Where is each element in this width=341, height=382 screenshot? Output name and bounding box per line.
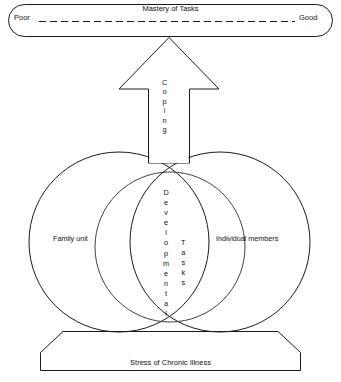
coping-arrow-label: Coping [162,78,167,134]
vertical-label-letter: p [163,97,167,106]
vertical-label-letter: D [163,188,168,198]
vertical-label-letter: a [181,248,185,258]
vertical-label-letter: v [164,208,168,218]
vertical-label-letter: t [165,289,167,299]
individual-members-label: Individual members [216,235,278,242]
vertical-label-letter: n [164,279,168,289]
vertical-label-letter: s [181,278,185,288]
vertical-label-letter: o [163,87,167,96]
vertical-label-letter: o [164,238,168,248]
arrow-shaft-mask [150,150,189,163]
vertical-label-letter: g [163,125,167,134]
vertical-label-letter: n [163,116,167,125]
vertical-label-letter: e [164,218,168,228]
vertical-label-letter: T [181,238,185,248]
vertical-label-letter: l [165,309,167,319]
vertical-label-letter: p [164,249,168,259]
mastery-scale-poor-label: Poor [14,14,30,22]
vertical-label-letter: k [181,268,185,278]
lens-left-arc [95,172,170,322]
tasks-label: Tasks [181,238,185,288]
diagram-vector-layer [0,0,341,382]
vertical-label-letter: a [164,299,168,309]
vertical-label-letter: s [181,258,185,268]
coping-arrow-outline [119,38,219,164]
diagram-canvas: Mastery of Tasks Poor Good Coping Family… [0,0,341,382]
stress-of-chronic-illness-label: Stress of Chronic Illness [0,359,341,367]
vertical-label-letter: C [162,78,167,87]
family-unit-label: Family unit [53,235,88,242]
developmental-label: Developmental [163,188,169,319]
vertical-label-letter: e [164,269,168,279]
mastery-of-tasks-label: Mastery of Tasks [0,5,341,13]
vertical-label-letter: i [164,106,166,115]
vertical-label-letter: l [165,228,167,238]
mastery-scale-good-label: Good [299,14,317,22]
vertical-label-letter: m [163,259,169,269]
vertical-label-letter: e [164,198,168,208]
